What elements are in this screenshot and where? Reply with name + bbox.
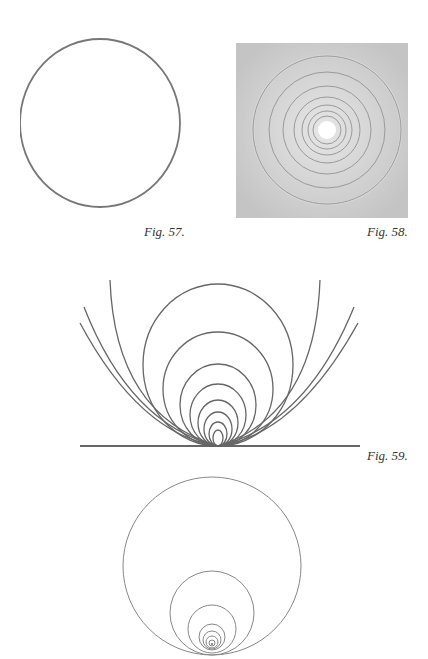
circle-drawing	[20, 38, 195, 218]
figure-57	[20, 38, 195, 218]
caption-fig-57: Fig. 57.	[144, 224, 185, 240]
internally-tangent-circles-drawing	[120, 474, 305, 659]
concentric-circles-drawing	[236, 43, 408, 218]
figure-58	[236, 43, 408, 218]
figure-59	[70, 265, 360, 455]
tangent-circles-drawing	[70, 265, 360, 455]
caption-fig-59: Fig. 59.	[367, 448, 408, 464]
caption-fig-58: Fig. 58.	[367, 224, 408, 240]
figure-60	[120, 474, 305, 659]
